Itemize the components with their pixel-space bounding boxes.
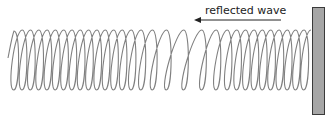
arrow-left-icon (194, 17, 281, 23)
spring-coil (8, 30, 311, 90)
diagram-svg (0, 0, 336, 116)
wall (313, 8, 325, 115)
diagram-canvas: reflected wave (0, 0, 336, 116)
